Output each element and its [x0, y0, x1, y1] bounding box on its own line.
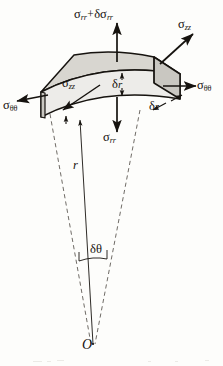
label-stress-hoop-left: σθθ [3, 99, 17, 113]
arrow-stress-axial-top-right [160, 34, 193, 64]
label-stress-radial-inner-text: σ [103, 130, 110, 144]
label-stress-hoop-right-text: σ [197, 78, 204, 92]
label-stress-radial-outer: σrr+δσrr [74, 8, 113, 22]
label-stress-axial-inner: σzz [62, 77, 75, 91]
label-stress-axial-inner-text: σ [62, 76, 69, 90]
bleed-mark [47, 361, 51, 362]
radius-line [80, 120, 93, 344]
bleed-mark [57, 360, 64, 361]
label-stress-radial-outer-text2: δσ [94, 7, 107, 21]
wedge-guide-lines [50, 110, 140, 344]
label-thickness-axial-sub: z [155, 100, 159, 112]
label-stress-axial-top-right-sub: zz [185, 23, 191, 32]
figure-container: σrr+δσrr σzz σθθ σθθ σzz σrr δr δz r δθ … [0, 0, 223, 366]
label-stress-hoop-right-sub: θθ [204, 84, 211, 93]
label-thickness-radial: δr [112, 78, 122, 91]
label-stress-axial-inner-sub: zz [69, 82, 75, 91]
apex-point [92, 343, 94, 345]
label-origin: O [82, 338, 92, 352]
label-stress-hoop-right: σθθ [197, 79, 211, 93]
bleed-mark [148, 361, 151, 362]
label-stress-radial-outer-sub: rr [81, 13, 87, 22]
label-angle-increment: δθ [90, 243, 102, 256]
label-stress-radial-inner-sub: rr [110, 136, 116, 145]
label-radius: r [73, 159, 78, 172]
label-stress-hoop-left-sub: θθ [10, 104, 17, 113]
label-thickness-axial: δz [149, 100, 159, 113]
label-stress-axial-top-right: σzz [178, 18, 191, 32]
label-stress-radial-outer-text: σ [74, 7, 81, 21]
bleed-mark [205, 360, 209, 361]
label-stress-axial-top-right-text: σ [178, 17, 185, 31]
label-stress-radial-outer-sub2: rr [107, 13, 113, 22]
bleed-mark [175, 361, 178, 362]
label-stress-hoop-left-text: σ [3, 98, 10, 112]
label-thickness-radial-sub: r [118, 78, 122, 90]
label-stress-radial-inner: σrr [103, 131, 116, 145]
label-angle-increment-sub: θ [96, 242, 102, 256]
bleed-mark [33, 361, 42, 362]
stress-element-diagram [0, 0, 223, 366]
